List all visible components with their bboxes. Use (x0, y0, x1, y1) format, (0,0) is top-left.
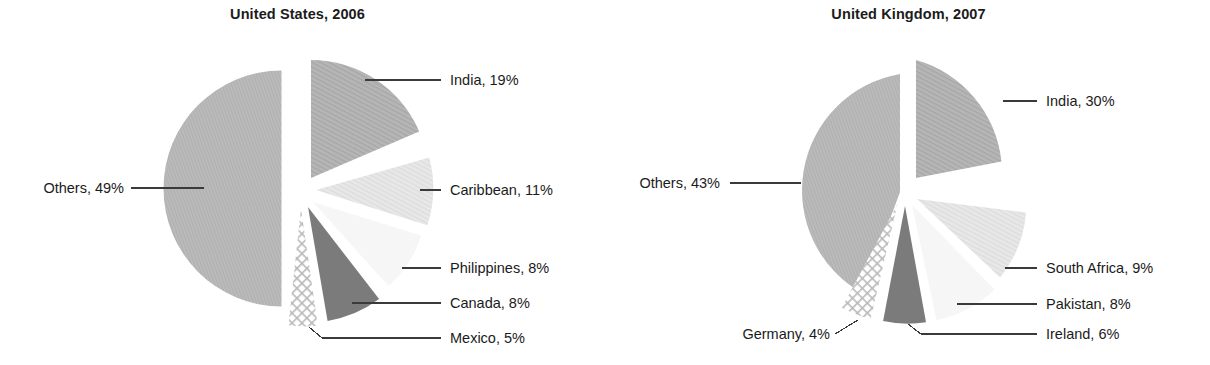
chart-panel-united-states: United States, 2006 (0, 0, 605, 365)
leader-line-mexico (309, 327, 441, 338)
pie-chart-figure: United States, 2006 (0, 0, 1210, 365)
pie-label-caribbean: Caribbean, 11% (450, 183, 553, 198)
pie-slice-others (802, 74, 900, 294)
pie-label-mexico: Mexico, 5% (450, 331, 525, 346)
pie-label-philippines: Philippines, 8% (450, 261, 549, 276)
pie-label-india: India, 30% (1046, 94, 1115, 109)
pie-label-others: Others, 49% (14, 181, 124, 196)
pie-slice-india (311, 60, 419, 178)
pie-label-india: India, 19% (450, 73, 519, 88)
pie-label-south-africa: South Africa, 9% (1046, 261, 1153, 276)
leader-line-ireland (908, 324, 1037, 334)
pie-label-others: Others, 43% (610, 176, 720, 191)
pie-label-germany: Germany, 4% (710, 327, 830, 342)
pie-slice-india (916, 60, 1001, 178)
pie-label-canada: Canada, 8% (450, 296, 530, 311)
pie-label-pakistan: Pakistan, 8% (1046, 297, 1131, 312)
leader-line-germany (835, 320, 858, 334)
chart-panel-united-kingdom: United Kingdom, 2007 (605, 0, 1210, 365)
pie-label-ireland: Ireland, 6% (1046, 327, 1119, 342)
